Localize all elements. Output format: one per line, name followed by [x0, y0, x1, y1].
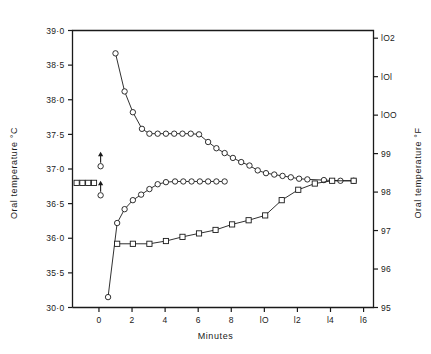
y-tick-label-right: lOl [381, 72, 392, 82]
data-point-marker [147, 131, 152, 136]
data-point-marker [122, 89, 127, 94]
x-tick-label: 6 [196, 315, 201, 325]
data-point-marker [180, 131, 185, 136]
x-tick-label: 8 [229, 315, 234, 325]
data-point-marker [181, 179, 186, 184]
data-point-marker [246, 218, 251, 223]
series-baseline-control [74, 180, 97, 185]
x-tick-label: l2 [294, 315, 301, 325]
data-point-marker [147, 241, 152, 246]
data-point-marker [305, 177, 310, 182]
series-line [116, 53, 354, 180]
plot-border [73, 31, 374, 308]
data-point-marker [280, 173, 285, 178]
data-point-marker [172, 179, 177, 184]
data-point-marker [230, 155, 235, 160]
data-point-marker [86, 180, 91, 185]
y-tick-label-left: 35·5 [46, 268, 64, 278]
data-point-marker [255, 168, 260, 173]
y-tick-label-right: 98 [381, 187, 391, 197]
data-point-marker [296, 187, 301, 192]
y-tick-label-left: 37·5 [46, 130, 64, 140]
data-point-marker [214, 146, 219, 151]
y-tick-label-left: 36·0 [46, 233, 64, 243]
data-point-marker [80, 180, 85, 185]
data-point-marker [130, 197, 135, 202]
data-point-marker [155, 131, 160, 136]
x-tick-label: lO [260, 315, 269, 325]
data-point-marker [74, 180, 79, 185]
data-point-marker [263, 213, 268, 218]
data-point-marker [113, 51, 118, 56]
y-tick-label-right: 95 [381, 303, 391, 313]
data-series-group [74, 51, 356, 300]
y-tick-label-left: 30·0 [46, 303, 64, 313]
data-point-marker [222, 179, 227, 184]
y-tick-label-right: 96 [381, 264, 391, 274]
data-point-marker [147, 186, 152, 191]
data-point-marker [288, 175, 293, 180]
data-point-marker [330, 178, 335, 183]
data-point-marker [114, 220, 119, 225]
data-point-marker [214, 179, 219, 184]
data-point-marker [138, 192, 143, 197]
data-point-marker [163, 179, 168, 184]
data-point-marker [263, 170, 268, 175]
y-tick-label-left: 38·0 [46, 95, 64, 105]
x-tick-label: 2 [130, 315, 135, 325]
y-axis-title-celsius: Oral temperature °C [9, 113, 19, 233]
series-line [117, 181, 354, 244]
data-point-marker [205, 179, 210, 184]
data-point-marker [163, 238, 168, 243]
x-axis-title-minutes: Minutes [0, 331, 431, 341]
data-point-marker [130, 110, 135, 115]
y-tick-label-right: 99 [381, 149, 391, 159]
chart-plot-area: 39·038·538·037·537·036·536·035·530·0lO2l… [0, 0, 431, 354]
y-tick-label-left: 38·5 [46, 60, 64, 70]
data-point-marker [196, 231, 201, 236]
y-tick-label-left: 37·0 [46, 164, 64, 174]
data-point-marker [155, 182, 160, 187]
data-point-marker [247, 163, 252, 168]
data-point-marker [188, 131, 193, 136]
y-tick-label-left: 36·5 [46, 199, 64, 209]
upper-arrow-marker [98, 152, 103, 169]
data-point-marker [196, 132, 201, 137]
data-point-marker [312, 181, 317, 186]
annotation-marker [98, 164, 103, 169]
annotations-group [98, 152, 103, 198]
x-tick-label: l4 [327, 315, 334, 325]
data-point-marker [163, 131, 168, 136]
arrow-up-head-icon [98, 181, 103, 186]
data-point-marker [205, 139, 210, 144]
annotation-marker [98, 193, 103, 198]
data-point-marker [222, 150, 227, 155]
x-tick-label: 0 [96, 315, 101, 325]
data-point-marker [139, 126, 144, 131]
data-point-marker [272, 172, 277, 177]
axis-tick-labels: 39·038·538·037·537·036·536·035·530·0lO2l… [46, 26, 397, 325]
x-tick-label: l6 [360, 315, 367, 325]
data-point-marker [115, 241, 120, 246]
data-point-marker [296, 176, 301, 181]
y-tick-label-right: 97 [381, 226, 391, 236]
x-tick-label: 4 [163, 315, 168, 325]
data-point-marker [351, 178, 356, 183]
axis-frame [73, 31, 374, 308]
y-tick-label-right: lO2 [381, 33, 395, 43]
data-point-marker [122, 206, 127, 211]
y-axis-title-fahrenheit: Oral temperature °F [413, 113, 423, 233]
data-point-marker [229, 222, 234, 227]
data-point-marker [172, 131, 177, 136]
data-point-marker [197, 179, 202, 184]
data-point-marker [91, 180, 96, 185]
series-hot-drink-cooling-curve [113, 51, 357, 184]
data-point-marker [130, 241, 135, 246]
data-point-marker [213, 227, 218, 232]
data-point-marker [180, 234, 185, 239]
data-point-marker [105, 294, 110, 299]
data-point-marker [279, 198, 284, 203]
data-point-marker [189, 179, 194, 184]
y-tick-label-right: lOO [381, 110, 397, 120]
y-tick-label-left: 39·0 [46, 26, 64, 36]
